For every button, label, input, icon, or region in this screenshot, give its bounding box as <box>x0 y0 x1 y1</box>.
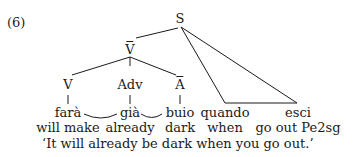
gloss-quando: when <box>207 121 243 135</box>
node-vbar: V <box>125 43 134 57</box>
leaf-esci: esci <box>285 106 311 120</box>
node-adv: Adv <box>117 78 142 92</box>
node-v: V <box>63 78 72 92</box>
free-translation: ‘It will already be dark when you go out… <box>42 136 314 151</box>
leaf-buio: buio <box>166 106 195 120</box>
leaf-gia: già <box>120 106 140 120</box>
leaf-quando: quando <box>201 106 250 120</box>
node-vbar-label: V <box>125 43 134 57</box>
gloss-fara: will make <box>36 121 99 135</box>
leaf-fara: farà <box>55 106 82 120</box>
gloss-buio: dark <box>165 121 195 135</box>
node-s: S <box>176 12 185 26</box>
node-abar: A <box>175 78 184 92</box>
node-abar-label: A <box>175 78 184 92</box>
gloss-esci: go out Pe2sg <box>256 121 341 135</box>
gloss-gia: already <box>105 121 154 135</box>
